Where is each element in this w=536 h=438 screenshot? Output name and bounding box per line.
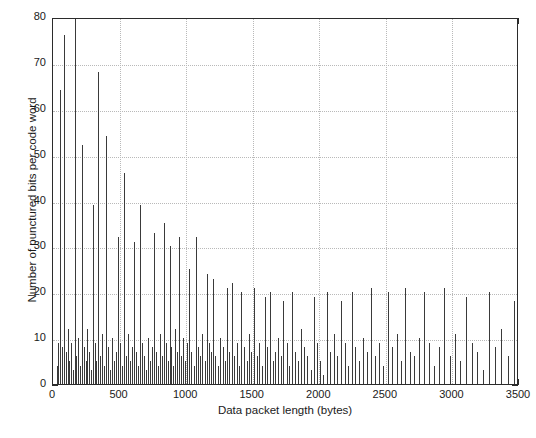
impulse-bar xyxy=(187,343,188,384)
impulse-bar xyxy=(241,292,242,384)
impulse-bar xyxy=(185,361,186,384)
impulse-bar xyxy=(91,370,92,384)
x-tick-mark xyxy=(518,379,519,385)
impulse-bar xyxy=(419,338,420,384)
impulse-bar xyxy=(237,343,238,384)
impulse-bar xyxy=(483,370,484,384)
impulse-bar xyxy=(223,347,224,384)
impulse-bar xyxy=(98,72,99,384)
impulse-bar xyxy=(162,356,163,384)
impulse-bar xyxy=(355,347,356,384)
impulse-bar xyxy=(345,343,346,384)
impulse-bar xyxy=(489,292,490,384)
impulse-bar xyxy=(477,352,478,384)
impulse-bar xyxy=(207,274,208,384)
impulse-bar xyxy=(181,356,182,384)
impulse-bar xyxy=(209,343,210,384)
impulse-bar xyxy=(102,334,103,384)
impulse-bar xyxy=(168,361,169,384)
data-series-impulses xyxy=(53,19,517,384)
impulse-bar xyxy=(466,297,467,384)
impulse-bar xyxy=(100,356,101,384)
x-tick-label: 3500 xyxy=(506,388,530,400)
impulse-bar xyxy=(122,366,123,384)
impulse-bar xyxy=(295,352,296,384)
impulse-bar xyxy=(132,347,133,384)
impulse-bar xyxy=(124,173,125,384)
impulse-bar xyxy=(106,136,107,384)
impulse-bar xyxy=(110,370,111,384)
impulse-bar xyxy=(317,343,318,384)
x-tick-label: 0 xyxy=(49,388,55,400)
impulse-bar xyxy=(289,366,290,384)
impulse-bar xyxy=(227,288,228,384)
impulse-bar xyxy=(142,343,143,384)
impulse-bar xyxy=(444,288,445,384)
impulse-bar xyxy=(414,356,415,384)
impulse-bar xyxy=(134,242,135,384)
impulse-bar xyxy=(112,338,113,384)
x-tick-label: 1000 xyxy=(173,388,197,400)
impulse-bar xyxy=(200,356,201,384)
impulse-bar xyxy=(410,352,411,384)
impulse-bar xyxy=(96,361,97,384)
impulse-bar xyxy=(257,356,258,384)
impulse-bar xyxy=(495,347,496,384)
impulse-bar xyxy=(460,361,461,384)
impulse-bar xyxy=(514,301,515,384)
impulse-bar xyxy=(60,90,61,384)
impulse-bar xyxy=(66,352,67,384)
impulse-bar xyxy=(156,352,157,384)
x-tick-mark xyxy=(518,18,519,24)
y-tick-mark xyxy=(52,385,58,386)
impulse-bar xyxy=(164,223,165,384)
impulse-bar xyxy=(275,352,276,384)
y-tick-label-text: 20 xyxy=(34,285,46,297)
impulse-bar xyxy=(118,237,119,384)
impulse-bar xyxy=(225,361,226,384)
impulse-bar xyxy=(183,338,184,384)
impulse-bar xyxy=(267,347,268,384)
impulse-bar xyxy=(311,370,312,384)
impulse-bar xyxy=(307,356,308,384)
impulse-bar xyxy=(292,292,293,384)
impulse-bar xyxy=(341,301,342,384)
impulse-bar xyxy=(265,297,266,384)
impulse-bar xyxy=(352,292,353,384)
impulse-bar xyxy=(278,338,279,384)
impulse-bar xyxy=(401,361,402,384)
y-tick-label-text: 10 xyxy=(34,331,46,343)
impulse-bar xyxy=(87,329,88,384)
impulse-bar xyxy=(218,366,219,384)
y-tick-label-text: 70 xyxy=(34,56,46,68)
impulse-bar xyxy=(337,356,338,384)
impulse-bar xyxy=(249,334,250,384)
impulse-bar xyxy=(146,370,147,384)
impulse-bar xyxy=(259,343,260,384)
impulse-bar xyxy=(301,329,302,384)
figure: Number of punctured bits per code word D… xyxy=(0,0,536,438)
impulse-bar xyxy=(375,356,376,384)
impulse-bar xyxy=(247,361,248,384)
impulse-bar xyxy=(154,233,155,384)
impulse-bar xyxy=(244,347,245,384)
impulse-bar xyxy=(69,361,70,384)
y-tick-label-text: 40 xyxy=(34,194,46,206)
impulse-bar xyxy=(304,347,305,384)
impulse-bar xyxy=(388,292,389,384)
x-axis-label: Data packet length (bytes) xyxy=(52,404,518,416)
impulse-bar xyxy=(327,292,328,384)
y-tick-label-text: 50 xyxy=(34,148,46,160)
impulse-bar xyxy=(254,288,255,384)
impulse-bar xyxy=(148,338,149,384)
impulse-bar xyxy=(363,338,364,384)
impulse-bar xyxy=(508,356,509,384)
impulse-bar xyxy=(205,361,206,384)
impulse-bar xyxy=(215,356,216,384)
x-tick-label: 1500 xyxy=(239,388,263,400)
impulse-bar xyxy=(287,343,288,384)
impulse-bar xyxy=(158,366,159,384)
y-tick-label-text: 60 xyxy=(34,102,46,114)
impulse-bar xyxy=(160,334,161,384)
impulse-bar xyxy=(429,343,430,384)
